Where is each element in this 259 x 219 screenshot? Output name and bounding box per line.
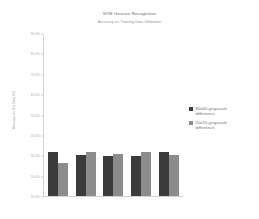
bar-2-series-1 bbox=[113, 154, 123, 196]
legend-label-0-line2: difference bbox=[196, 111, 215, 116]
legend-swatch-icon-1 bbox=[189, 121, 193, 125]
bar-4-series-0 bbox=[159, 152, 169, 196]
chart-container: SVM Gesture Recognition Accuracy vs. Tra… bbox=[0, 0, 259, 219]
bar-2-series-0 bbox=[103, 156, 113, 197]
legend-item-0: 80x60 grayscale difference bbox=[189, 106, 257, 117]
y-tick-mark-3 bbox=[41, 95, 43, 96]
legend-label-1-line2: difference bbox=[196, 125, 215, 130]
bar-0-series-1 bbox=[58, 163, 68, 196]
bar-1-series-0 bbox=[76, 155, 86, 197]
legend-swatch-icon-0 bbox=[189, 107, 193, 111]
y-tick-mark-4 bbox=[41, 115, 43, 116]
bar-1-series-1 bbox=[86, 152, 96, 196]
y-tick-mark-1 bbox=[41, 54, 43, 55]
plot-area: 90.0%80.0%70.0%60.0%50.0%40.0%30.0%20.0%… bbox=[43, 34, 183, 197]
legend-label-1-line1: 20x15 grayscale bbox=[196, 120, 228, 125]
bar-group-0 bbox=[48, 34, 68, 196]
bar-3-series-0 bbox=[131, 156, 141, 196]
y-tick-mark-2 bbox=[41, 74, 43, 75]
chart-subtitle: Accuracy vs. Training Data Utilization bbox=[0, 20, 259, 25]
bar-4-series-1 bbox=[169, 155, 179, 196]
bar-group-4 bbox=[159, 34, 179, 196]
y-tick-mark-0 bbox=[41, 34, 43, 35]
y-tick-mark-6 bbox=[41, 156, 43, 157]
bar-groups bbox=[44, 34, 183, 196]
legend-label-0-line1: 80x60 grayscale bbox=[196, 106, 228, 111]
bar-group-1 bbox=[76, 34, 96, 196]
legend-label-0: 80x60 grayscale difference bbox=[196, 106, 228, 117]
legend-label-1: 20x15 grayscale difference bbox=[196, 120, 228, 131]
y-tick-mark-8 bbox=[41, 197, 43, 198]
chart-legend: 80x60 grayscale difference 20x15 graysca… bbox=[189, 106, 257, 134]
y-tick-mark-5 bbox=[41, 135, 43, 136]
bar-group-2 bbox=[103, 34, 123, 196]
bar-group-3 bbox=[131, 34, 151, 196]
bar-0-series-0 bbox=[48, 152, 58, 196]
bar-3-series-1 bbox=[141, 152, 151, 196]
x-axis-line bbox=[43, 196, 183, 197]
chart-title: SVM Gesture Recognition bbox=[0, 11, 259, 17]
legend-item-1: 20x15 grayscale difference bbox=[189, 120, 257, 131]
y-axis-label: Accuracy on Test Data (%) bbox=[12, 91, 16, 129]
y-tick-mark-7 bbox=[41, 176, 43, 177]
